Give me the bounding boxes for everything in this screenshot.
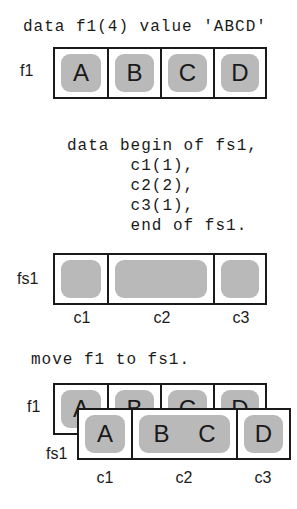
component-label-c1: c1 <box>74 309 91 327</box>
cell-value: C <box>179 59 196 87</box>
fs1-declaration-line-3: c2(2), <box>67 177 194 196</box>
cell-value: B <box>126 59 142 87</box>
fs1-target-c1: A <box>79 410 133 458</box>
f1-cell-2: B <box>109 49 162 97</box>
component-label-c3: c3 <box>233 309 250 327</box>
target-label-c2: c2 <box>176 469 193 487</box>
fs1-target-c2: BC <box>133 410 238 458</box>
f1-slot-1: A <box>61 54 101 92</box>
fs1-slot-c1 <box>61 260 101 298</box>
cell-value: A <box>97 420 113 448</box>
move-statement: move f1 to fs1. <box>31 351 190 370</box>
cell-value: A <box>73 59 89 87</box>
fs1-target-structure: A BC D <box>77 408 291 460</box>
fs1-slot-c3 <box>221 260 259 298</box>
fs1-component-c2 <box>109 255 215 303</box>
f1-declaration-statement: data f1(4) value 'ABCD' <box>23 18 267 37</box>
f1-slot-4: D <box>221 54 259 92</box>
cell-value: B <box>153 420 169 448</box>
f1-slot-3: C <box>168 54 207 92</box>
cell-value: C <box>198 420 215 448</box>
fs1-declaration-line-5: end of fs1. <box>67 217 247 236</box>
target-label-c1: c1 <box>97 469 114 487</box>
fs1-declaration-line-4: c3(1), <box>67 197 194 216</box>
fs1-target-c3: D <box>238 410 289 458</box>
f1-cell-4: D <box>215 49 265 97</box>
fs1-declaration-line-2: c1(1), <box>67 157 194 176</box>
f1-field: A B C D <box>53 47 267 99</box>
fs1-target-slot-c3: D <box>244 415 283 453</box>
fs1-slot-c2 <box>115 260 207 298</box>
fs1-field-label: fs1 <box>17 270 38 288</box>
fs1-structure <box>53 253 267 305</box>
fs1-declaration-line-1: data begin of fs1, <box>67 137 258 156</box>
f1-cell-3: C <box>162 49 215 97</box>
fs1-component-c1 <box>55 255 109 303</box>
f1-overlay-label: f1 <box>27 398 40 416</box>
fs1-component-c3 <box>215 255 265 303</box>
f1-slot-2: B <box>115 54 154 92</box>
f1-field-label: f1 <box>20 62 33 80</box>
fs1-overlay-label: fs1 <box>46 445 67 463</box>
target-label-c3: c3 <box>255 469 272 487</box>
f1-cell-1: A <box>55 49 109 97</box>
component-label-c2: c2 <box>154 309 171 327</box>
cell-value: D <box>255 420 272 448</box>
fs1-target-slot-c1: A <box>85 415 125 453</box>
fs1-target-slot-c2: BC <box>139 415 230 453</box>
cell-value: D <box>231 59 248 87</box>
